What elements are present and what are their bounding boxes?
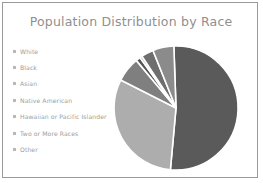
- square-bullet-icon: [13, 132, 16, 135]
- legend-item-label: Native American: [20, 97, 72, 104]
- chart-frame: Population Distribution by Race White Bl…: [2, 2, 258, 178]
- square-bullet-icon: [13, 99, 16, 102]
- legend-item-label: Hawaiian or Pacific Islander: [20, 113, 107, 120]
- legend-item-label: Black: [20, 64, 37, 71]
- legend-item[interactable]: Two or More Races: [13, 125, 121, 141]
- legend-item-label: Asian: [20, 80, 37, 87]
- legend-item[interactable]: White: [13, 43, 121, 59]
- legend-item[interactable]: Native American: [13, 92, 121, 108]
- chart-title: Population Distribution by Race: [3, 14, 259, 29]
- square-bullet-icon: [13, 115, 16, 118]
- legend-item[interactable]: Black: [13, 59, 121, 75]
- chart-legend: White Black Asian Native American Hawaii…: [13, 43, 121, 158]
- legend-item[interactable]: Other: [13, 141, 121, 157]
- legend-item-label: Two or More Races: [20, 130, 78, 137]
- square-bullet-icon: [13, 50, 16, 53]
- legend-item-label: Other: [20, 146, 38, 153]
- legend-item-label: White: [20, 48, 38, 55]
- square-bullet-icon: [13, 148, 16, 151]
- pie-chart-svg: [108, 41, 244, 177]
- legend-item[interactable]: Asian: [13, 76, 121, 92]
- square-bullet-icon: [13, 66, 16, 69]
- square-bullet-icon: [13, 82, 16, 85]
- legend-item[interactable]: Hawaiian or Pacific Islander: [13, 109, 121, 125]
- pie-slice[interactable]: [170, 46, 238, 170]
- pie-chart: [108, 41, 244, 177]
